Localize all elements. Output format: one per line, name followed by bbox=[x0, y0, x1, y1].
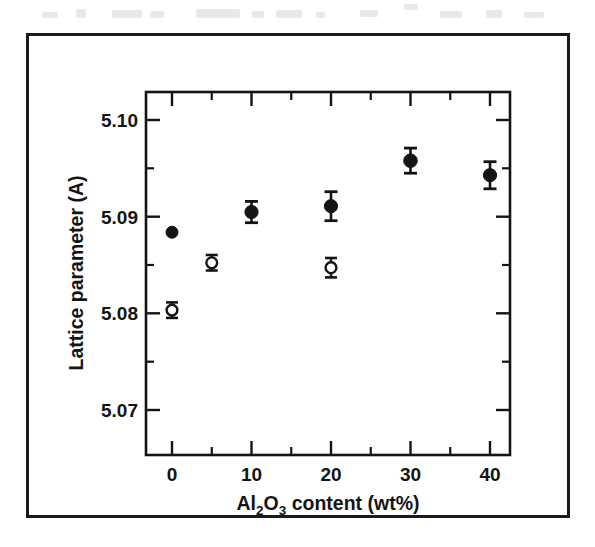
figure-outer-border bbox=[26, 33, 570, 518]
scan-artifact-band bbox=[0, 0, 595, 32]
